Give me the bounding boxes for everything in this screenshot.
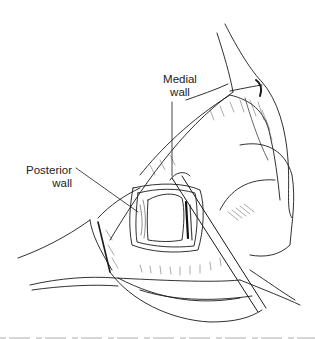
posterior-wall-label: Posterior wall — [12, 164, 72, 190]
surgical-illustration: Medial wall Posterior wall — [0, 0, 315, 339]
medial-wall-label-line-2: wall — [150, 86, 210, 99]
medial-wall-label: Medial wall — [150, 73, 210, 99]
posterior-wall-label-line-2: wall — [12, 177, 72, 190]
clipped-caption — [0, 333, 315, 339]
medial-wall-label-line-1: Medial — [150, 73, 210, 86]
posterior-wall-label-line-1: Posterior — [12, 164, 72, 177]
